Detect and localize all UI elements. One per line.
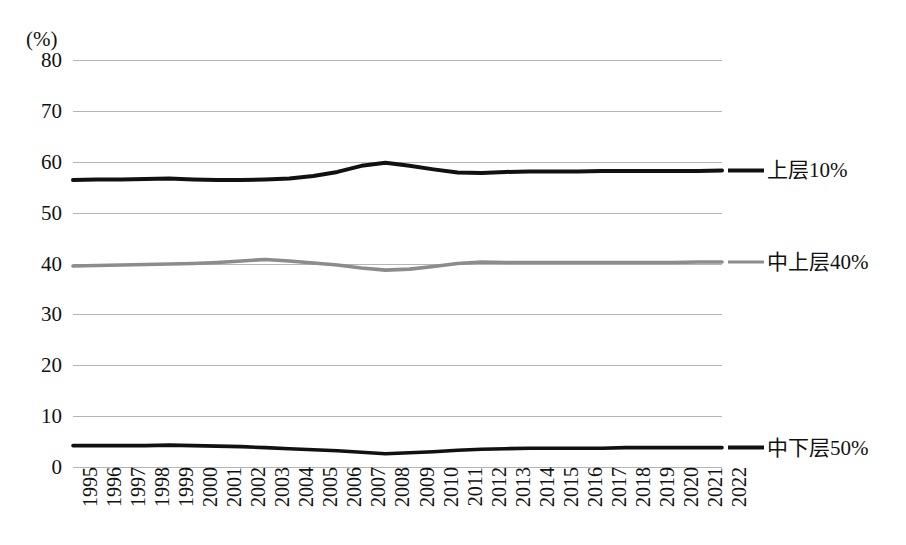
legend-swatch-icon-2	[728, 446, 764, 450]
x-tick-label-2013: 2013	[513, 467, 533, 507]
x-tick-label-2019: 2019	[657, 467, 677, 507]
series-line-2	[73, 445, 722, 454]
x-tick-label-2004: 2004	[296, 467, 316, 507]
legend-item-2[interactable]: 中下层50%	[728, 437, 869, 458]
x-tick-label-2002: 2002	[248, 467, 268, 507]
y-tick-label-50: 50	[16, 202, 62, 223]
x-tick-label-2015: 2015	[561, 467, 581, 507]
y-axis-tick-labels: 80706050403020100	[16, 0, 62, 545]
x-tick-label-1998: 1998	[152, 467, 172, 507]
x-tick-label-2008: 2008	[392, 467, 412, 507]
x-tick-label-2010: 2010	[441, 467, 461, 507]
chart-legend: 上层10%中上层40%中下层50%	[728, 0, 906, 545]
x-tick-label-2021: 2021	[705, 467, 725, 507]
series-line-0	[73, 163, 722, 180]
legend-label-1: 中上层40%	[767, 251, 869, 272]
x-tick-label-1997: 1997	[128, 467, 148, 507]
x-tick-label-2020: 2020	[681, 467, 701, 507]
x-tick-label-2001: 2001	[224, 467, 244, 507]
plot-area	[73, 60, 722, 467]
y-tick-label-10: 10	[16, 406, 62, 427]
x-tick-label-2017: 2017	[609, 467, 629, 507]
x-tick-label-1999: 1999	[176, 467, 196, 507]
series-lines	[73, 60, 722, 467]
x-tick-label-2009: 2009	[417, 467, 437, 507]
x-tick-label-2000: 2000	[200, 467, 220, 507]
y-tick-label-80: 80	[16, 50, 62, 71]
legend-label-2: 中下层50%	[767, 437, 869, 458]
y-tick-label-60: 60	[16, 151, 62, 172]
x-axis-tick-labels: 1995199619971998199920002001200220032004…	[73, 467, 722, 545]
y-tick-label-0: 0	[16, 457, 62, 478]
y-tick-label-40: 40	[16, 253, 62, 274]
y-tick-label-20: 20	[16, 355, 62, 376]
legend-swatch-icon-0	[728, 168, 764, 172]
x-tick-label-1995: 1995	[80, 467, 100, 507]
x-tick-label-2011: 2011	[465, 467, 485, 506]
x-tick-label-2003: 2003	[272, 467, 292, 507]
x-tick-label-1996: 1996	[104, 467, 124, 507]
x-tick-label-2006: 2006	[344, 467, 364, 507]
x-tick-label-2014: 2014	[537, 467, 557, 507]
legend-label-0: 上层10%	[767, 160, 848, 181]
series-line-1	[73, 259, 722, 270]
x-tick-label-2016: 2016	[585, 467, 605, 507]
x-tick-label-2012: 2012	[489, 467, 509, 507]
legend-swatch-icon-1	[728, 260, 764, 264]
x-tick-label-2005: 2005	[320, 467, 340, 507]
y-tick-label-30: 30	[16, 304, 62, 325]
legend-item-0[interactable]: 上层10%	[728, 160, 848, 181]
line-chart: (%) 80706050403020100 199519961997199819…	[0, 0, 906, 545]
x-tick-label-2018: 2018	[633, 467, 653, 507]
x-tick-label-2007: 2007	[368, 467, 388, 507]
legend-item-1[interactable]: 中上层40%	[728, 251, 869, 272]
y-tick-label-70: 70	[16, 100, 62, 121]
